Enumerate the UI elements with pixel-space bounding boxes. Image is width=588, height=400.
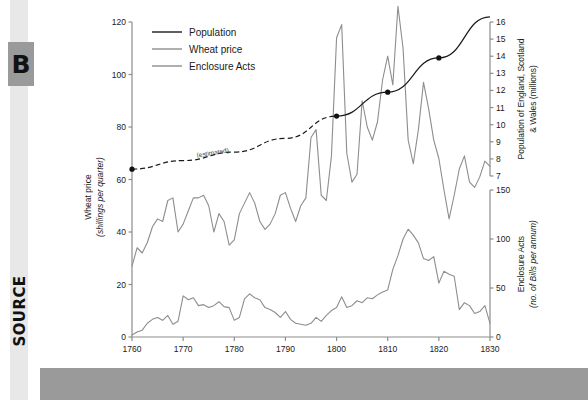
x-axis-tick-label: 1830: [481, 344, 500, 354]
x-axis-tick-label: 1760: [123, 344, 142, 354]
enclosure-acts-line: [132, 229, 490, 335]
legend-label-enclosure-acts: Enclosure Acts: [189, 61, 255, 72]
x-axis-tick-label: 1770: [174, 344, 193, 354]
wheat-price-tick-label: 20: [117, 280, 127, 290]
population-tick-label: 8: [496, 154, 501, 164]
x-axis-tick-label: 1790: [276, 344, 295, 354]
wheat-price-axis-title-line1: Wheat price: [83, 174, 93, 220]
legend-label-wheat-price: Wheat price: [189, 44, 243, 55]
population-tick-label: 7: [496, 171, 501, 181]
population-data-point: [436, 55, 441, 60]
population-line-actual: [337, 17, 490, 116]
population-tick-label: 11: [496, 103, 505, 113]
wheat-price-tick-label: 80: [117, 122, 127, 132]
population-data-point: [129, 167, 134, 172]
enclosure-acts-tick-label: 50: [496, 283, 506, 293]
chart-figure: 020406080100120Wheat price(shillings per…: [0, 0, 588, 400]
wheat-price-tick-label: 0: [121, 332, 126, 342]
population-tick-label: 15: [496, 34, 506, 44]
population-axis-title-line1: Population of England, Scotland: [516, 38, 526, 159]
enclosure-acts-axis-title-line1: Enclosure Acts: [516, 236, 526, 292]
population-estimated-annotation: (estimated): [196, 147, 229, 160]
enclosure-acts-tick-label: 100: [496, 234, 510, 244]
x-axis-tick-label: 1780: [225, 344, 244, 354]
x-axis-tick-label: 1810: [378, 344, 397, 354]
enclosure-acts-tick-label: 150: [496, 185, 510, 195]
population-tick-label: 13: [496, 68, 506, 78]
x-axis-tick-label: 1800: [327, 344, 346, 354]
wheat-price-tick-label: 100: [112, 70, 126, 80]
screenshot-root: B SOURCE 020406080100120Wheat price(shil…: [0, 0, 588, 400]
wheat-price-axis-title-line2: (shillings per quarter): [95, 157, 105, 237]
population-tick-label: 10: [496, 120, 506, 130]
population-tick-label: 12: [496, 85, 506, 95]
enclosure-acts-tick-label: 0: [496, 332, 501, 342]
population-tick-label: 16: [496, 17, 506, 27]
population-tick-label: 14: [496, 51, 506, 61]
population-axis-title-line2: & Wales (millions): [528, 65, 538, 133]
legend-label-population: Population: [189, 27, 236, 38]
x-axis-tick-label: 1820: [429, 344, 448, 354]
wheat-price-line: [132, 6, 490, 266]
population-data-point: [385, 90, 390, 95]
wheat-price-tick-label: 40: [117, 227, 127, 237]
wheat-price-tick-label: 120: [112, 17, 126, 27]
population-tick-label: 9: [496, 137, 501, 147]
enclosure-acts-axis-title-line2: (no. of Bills per annum): [528, 220, 538, 308]
population-line-estimated: [132, 116, 337, 169]
wheat-price-tick-label: 60: [117, 175, 127, 185]
population-data-point: [334, 114, 339, 119]
